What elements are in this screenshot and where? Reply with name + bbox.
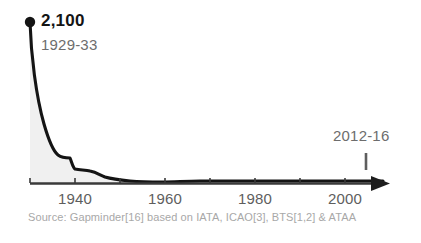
x-tick-label-1960: 1960 xyxy=(148,190,182,207)
chart-figure: 2,100 1929-33 2012-16 1940 1960 1980 200… xyxy=(0,0,421,243)
end-period-label: 2012-16 xyxy=(333,127,389,144)
source-note: Source: Gapminder[16] based on IATA, ICA… xyxy=(28,211,356,223)
peak-period-label: 1929-33 xyxy=(41,36,97,53)
x-tick-label-2000: 2000 xyxy=(328,190,362,207)
peak-point-marker xyxy=(25,17,35,27)
x-axis-arrowhead xyxy=(371,176,390,191)
peak-value-label: 2,100 xyxy=(41,11,85,31)
x-tick-label-1940: 1940 xyxy=(58,190,92,207)
x-tick-label-1980: 1980 xyxy=(238,190,272,207)
